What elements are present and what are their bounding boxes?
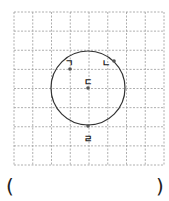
answer-blank[interactable]	[22, 176, 152, 198]
point-label: ㄹ	[84, 134, 92, 144]
point-dot	[86, 86, 90, 90]
point-label: ㄴ	[102, 58, 110, 68]
point-label: ㄷ	[84, 77, 92, 87]
point-label: ㄱ	[65, 58, 73, 68]
labeled-points: ㄱㄴㄷㄹ	[65, 58, 116, 144]
point-dot	[86, 124, 90, 128]
circle-grid-figure: ㄱㄴㄷㄹ	[0, 0, 169, 170]
answer-close-paren: )	[156, 174, 164, 198]
point-dot	[112, 59, 116, 63]
answer-open-paren: (	[6, 174, 14, 198]
point-dot	[68, 67, 72, 71]
